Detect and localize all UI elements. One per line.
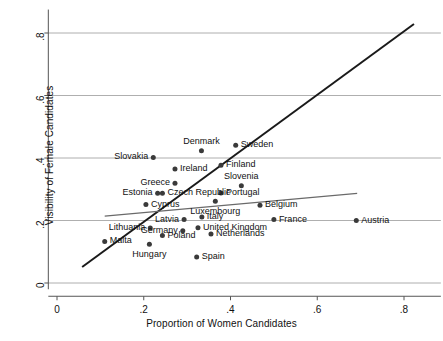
point-label: Malta — [110, 236, 132, 245]
data-point-marker — [213, 199, 218, 204]
point-label: Austria — [361, 216, 389, 225]
data-point-marker — [143, 202, 148, 207]
point-label: France — [279, 215, 307, 224]
x-tick-label: .6 — [302, 304, 332, 315]
plot-canvas — [0, 0, 443, 341]
data-point-marker — [182, 217, 187, 222]
point-label: Belgium — [265, 200, 298, 209]
point-label: Sweden — [241, 140, 274, 149]
y-tick-label: .4 — [35, 158, 46, 180]
point-label: Netherlands — [216, 229, 265, 238]
y-tick-label: 0 — [35, 283, 46, 305]
point-label: Hungary — [89, 250, 209, 259]
data-point-marker — [208, 231, 213, 236]
data-point-marker — [218, 163, 223, 168]
y-tick-label: .2 — [35, 220, 46, 242]
data-point-marker — [151, 155, 156, 160]
x-axis-title: Proportion of Women Candidates — [0, 318, 443, 329]
data-point-marker — [155, 191, 160, 196]
point-label: Spain — [202, 252, 225, 261]
data-point-marker — [271, 217, 276, 222]
y-tick-label: .6 — [35, 95, 46, 117]
data-point-marker — [172, 166, 177, 171]
data-point-marker — [172, 181, 177, 186]
y-tick-label: .8 — [35, 33, 46, 55]
point-label: Poland — [167, 231, 195, 240]
x-tick-label: .8 — [389, 304, 419, 315]
point-label: Estonia — [123, 188, 153, 197]
point-label: Lithuania — [109, 223, 146, 232]
point-label: Slovakia — [114, 152, 148, 161]
point-label: Greece — [140, 178, 170, 187]
point-label: Finland — [226, 160, 256, 169]
data-point-marker — [199, 148, 204, 153]
point-label: Latvia — [155, 215, 179, 224]
data-point-marker — [195, 225, 200, 230]
x-tick-label: .4 — [216, 304, 246, 315]
scatter-plot-figure: Proportion of Women Candidates Visibilit… — [0, 0, 443, 341]
data-point-marker — [160, 191, 165, 196]
data-point-marker — [147, 242, 152, 247]
x-tick-label: .2 — [129, 304, 159, 315]
data-point-marker — [354, 218, 359, 223]
point-label: Czech Republic — [167, 188, 230, 197]
point-label: Portugal — [226, 188, 260, 197]
x-tick-label: 0 — [42, 304, 72, 315]
point-label: Italy — [207, 212, 224, 221]
data-point-marker — [102, 239, 107, 244]
point-label: Slovenia — [181, 172, 301, 181]
